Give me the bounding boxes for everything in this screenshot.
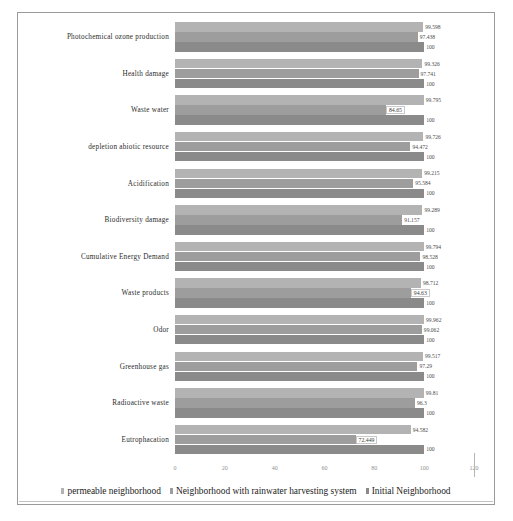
bar-value-label: 99.795 xyxy=(424,97,441,103)
bar-track: 99.598 xyxy=(175,22,474,31)
bar-value-label: 100 xyxy=(424,446,434,452)
bar-value-label: 98.528 xyxy=(420,254,437,260)
bar-track: 84.65 xyxy=(175,105,474,114)
bar-track: 100 xyxy=(175,262,474,271)
bar-segment xyxy=(175,42,424,51)
bar-segment xyxy=(175,169,422,178)
bar-segment xyxy=(175,252,420,261)
legend-item[interactable]: permeable neighborhood xyxy=(61,486,160,496)
bar-value-label: 99.726 xyxy=(423,134,440,140)
bar-segment xyxy=(175,242,424,251)
bar-track: 97.29 xyxy=(175,362,474,371)
bar-segment xyxy=(175,95,424,104)
legend-item[interactable]: Initial Neighborhood xyxy=(366,486,451,496)
bar-value-label: 97.741 xyxy=(419,71,436,77)
bar-track: 99.062 xyxy=(175,325,474,334)
bar-value-label: 100 xyxy=(424,81,434,87)
bar-value-label: 94.472 xyxy=(410,144,427,150)
bar-track: 99.726 xyxy=(175,132,474,141)
bar-track: 94.472 xyxy=(175,142,474,151)
bar-track: 100 xyxy=(175,298,474,307)
category-label: Waste water xyxy=(131,106,169,114)
bar-track: 100 xyxy=(175,225,474,234)
chart-row: Biodiversity damage99.28991.157100 xyxy=(18,202,494,239)
bar-value-label: 100 xyxy=(424,300,434,306)
bar-track: 97.741 xyxy=(175,69,474,78)
bar-value-label: 100 xyxy=(424,337,434,343)
bar-track: 100 xyxy=(175,189,474,198)
x-axis-tick: 60 xyxy=(322,465,328,471)
bar-segment xyxy=(175,388,424,397)
bar-track: 99.794 xyxy=(175,242,474,251)
bar-value-label: 99.062 xyxy=(422,327,439,333)
x-axis: 020406080100120 xyxy=(175,462,474,480)
bar-segment xyxy=(175,225,424,234)
bar-value-label: 100 xyxy=(424,117,434,123)
bar-group: 99.51797.29100 xyxy=(175,352,474,382)
bar-value-label: 94.63 xyxy=(411,289,430,297)
bar-segment xyxy=(175,435,356,444)
bar-group: 99.21595.584100 xyxy=(175,169,474,199)
legend-divider xyxy=(19,501,493,502)
bar-value-label: 100 xyxy=(424,227,434,233)
bar-track: 99.81 xyxy=(175,388,474,397)
bar-value-label: 100 xyxy=(424,264,434,270)
bar-track: 98.528 xyxy=(175,252,474,261)
bar-segment xyxy=(175,189,424,198)
category-label: Waste products xyxy=(122,289,169,297)
bar-group: 99.59897.438100 xyxy=(175,22,474,52)
bar-value-label: 97.29 xyxy=(417,363,432,369)
chart-row: Eutrophacation94.58272.449100 xyxy=(18,422,494,459)
chart-row: Waste products98.71294.63100 xyxy=(18,275,494,312)
x-axis-tick: 20 xyxy=(222,465,228,471)
bar-value-label: 99.794 xyxy=(424,244,441,250)
chart-row: Photochemical ozone production99.59897.4… xyxy=(18,19,494,56)
bar-value-label: 99.517 xyxy=(423,353,440,359)
bar-value-label: 97.438 xyxy=(418,34,435,40)
bar-track: 94.63 xyxy=(175,288,474,297)
bar-value-label: 100 xyxy=(424,190,434,196)
bar-segment xyxy=(175,278,421,287)
chart-legend: permeable neighborhoodNeighborhood with … xyxy=(18,486,494,496)
bar-segment xyxy=(175,288,411,297)
bar-track: 98.712 xyxy=(175,278,474,287)
bar-segment xyxy=(175,315,424,324)
category-label: Cumulative Energy Demand xyxy=(81,253,169,261)
bar-track: 91.157 xyxy=(175,215,474,224)
bar-segment xyxy=(175,445,424,454)
category-label: Radioactive waste xyxy=(112,399,169,407)
category-label: Acidification xyxy=(128,180,169,188)
legend-label: Neighborhood with rainwater harvesting s… xyxy=(176,486,357,496)
bar-segment xyxy=(175,215,402,224)
bar-segment xyxy=(175,152,424,161)
legend-label: Initial Neighborhood xyxy=(372,486,451,496)
bar-segment xyxy=(175,32,418,41)
bar-group: 99.79498.528100 xyxy=(175,242,474,272)
bar-track: 94.582 xyxy=(175,425,474,434)
legend-swatch-icon xyxy=(366,488,369,494)
x-axis-tick: 0 xyxy=(174,465,177,471)
chart-row: Odor99.96299.062100 xyxy=(18,312,494,349)
bar-value-label: 100 xyxy=(424,44,434,50)
bar-group: 98.71294.63100 xyxy=(175,278,474,308)
chart-row: depletion abiotic resource99.72694.47210… xyxy=(18,129,494,166)
bar-value-label: 99.215 xyxy=(422,170,439,176)
x-axis-end-line xyxy=(474,453,475,477)
bar-value-label: 95.584 xyxy=(413,180,430,186)
bar-segment xyxy=(175,179,413,188)
bar-segment xyxy=(175,335,424,344)
bar-value-label: 100 xyxy=(424,410,434,416)
bar-value-label: 99.326 xyxy=(422,61,439,67)
bar-value-label: 100 xyxy=(424,373,434,379)
bar-track: 96.3 xyxy=(175,398,474,407)
legend-item[interactable]: Neighborhood with rainwater harvesting s… xyxy=(170,486,357,496)
category-label: Photochemical ozone production xyxy=(67,33,169,41)
category-label: Odor xyxy=(153,326,169,334)
category-label: Health damage xyxy=(122,70,169,78)
bar-segment xyxy=(175,69,419,78)
bar-value-label: 99.81 xyxy=(424,390,439,396)
bar-segment xyxy=(175,352,423,361)
bar-track: 99.326 xyxy=(175,59,474,68)
bar-segment xyxy=(175,205,422,214)
bar-segment xyxy=(175,142,410,151)
